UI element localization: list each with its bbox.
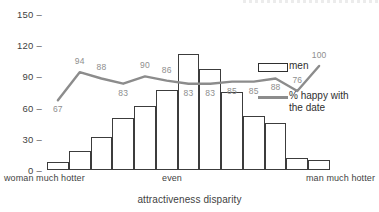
y-tick-dash: – — [37, 71, 42, 82]
line-value-label-7: 83 — [184, 88, 194, 98]
y-tick-dash: – — [37, 9, 42, 20]
legend-label-happy: % happy with the date — [289, 90, 348, 113]
legend-label-happy-line1: % happy with — [289, 90, 348, 101]
x-axis-title: attractiveness disparity — [0, 194, 379, 205]
chart-legend: men % happy with the date — [258, 60, 376, 131]
line-value-label-6: 86 — [162, 65, 172, 75]
line-value-label-8: 83 — [205, 88, 215, 98]
line-value-label-2: 94 — [75, 56, 85, 66]
y-tick-dash: – — [37, 40, 42, 51]
y-tick-dash: – — [37, 133, 42, 144]
legend-item-men: men — [258, 60, 376, 72]
x-label-woman-much-hotter: woman much hotter — [4, 173, 85, 183]
legend-label-happy-line2: the date — [289, 102, 325, 113]
legend-line-swatch-icon — [258, 96, 288, 99]
x-label-man-much-hotter: man much hotter — [306, 173, 375, 183]
line-value-label-4: 83 — [118, 88, 128, 98]
chart-container: 150– 120– 90– 60– 30– 0– 679488839086838… — [0, 0, 379, 212]
y-tick-dash: – — [37, 102, 42, 113]
x-label-even: even — [162, 173, 182, 183]
y-tick-120: 120– — [17, 40, 42, 51]
line-value-label-9: 85 — [227, 86, 237, 96]
legend-bar-swatch-icon — [258, 63, 288, 72]
y-tick-30: 30– — [23, 133, 42, 144]
line-value-label-13: 100 — [312, 50, 327, 60]
line-value-label-1: 67 — [53, 104, 63, 114]
legend-item-happy: % happy with the date — [258, 90, 376, 113]
y-tick-90: 90– — [23, 71, 42, 82]
y-tick-60: 60– — [23, 102, 42, 113]
line-value-label-3: 88 — [96, 62, 106, 72]
y-tick-150: 150– — [17, 9, 42, 20]
top-crop-artifact — [243, 0, 379, 3]
x-axis-baseline — [47, 169, 330, 170]
legend-label-men: men — [289, 60, 308, 72]
line-value-label-5: 90 — [140, 60, 150, 70]
